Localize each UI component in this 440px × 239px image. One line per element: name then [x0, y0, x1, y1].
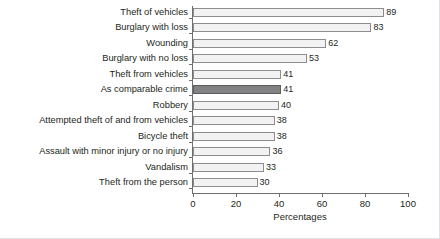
category-label: Theft from the person — [0, 177, 188, 188]
y-axis-tick — [189, 33, 192, 34]
bar-row: Wounding62 — [0, 38, 440, 54]
bar — [193, 8, 384, 17]
plot-area: Theft of vehicles89Burglary with loss83W… — [0, 0, 440, 239]
x-axis-tick — [408, 193, 409, 197]
bar-row: As comparable crime41 — [0, 84, 440, 100]
y-axis-tick — [189, 49, 192, 50]
x-axis-title-label: Percentages — [273, 211, 326, 222]
bar-highlighted — [193, 85, 281, 94]
category-label: Vandalism — [0, 162, 188, 173]
bar-value-label: 41 — [283, 69, 293, 80]
x-axis-tick — [322, 193, 323, 197]
x-axis-line — [192, 193, 409, 194]
bar — [193, 116, 275, 125]
bar-value-label: 83 — [373, 22, 383, 33]
x-axis-tick-label: 0 — [190, 198, 195, 210]
category-label: Theft of vehicles — [0, 7, 188, 18]
category-label: As comparable crime — [0, 84, 188, 95]
x-axis-tick — [279, 193, 280, 197]
bar-value-label: 40 — [281, 100, 291, 111]
category-label: Theft from vehicles — [0, 69, 188, 80]
bar-row: Robbery40 — [0, 100, 440, 116]
category-label: Burglary with loss — [0, 22, 188, 33]
bar-chart-figure: Theft of vehicles89Burglary with loss83W… — [0, 0, 440, 239]
x-axis-tick — [365, 193, 366, 197]
y-axis-tick — [189, 64, 192, 65]
bar-row: Vandalism33 — [0, 162, 440, 178]
bar — [193, 163, 264, 172]
y-axis-tick — [189, 173, 192, 174]
bar-value-label: 62 — [328, 38, 338, 49]
bar-value-label: 36 — [272, 146, 282, 157]
category-label: Robbery — [0, 100, 188, 111]
bar-value-label: 38 — [277, 115, 287, 126]
category-label: Burglary with no loss — [0, 53, 188, 64]
y-axis-tick — [189, 188, 192, 189]
x-axis-tick-label: 100 — [400, 198, 416, 210]
y-axis-tick — [189, 80, 192, 81]
y-axis-tick — [189, 142, 192, 143]
bar-row: Theft from vehicles41 — [0, 69, 440, 85]
bar-value-label: 41 — [283, 84, 293, 95]
bar-value-label: 53 — [309, 53, 319, 64]
bar-row: Burglary with no loss53 — [0, 53, 440, 69]
bar-row: Bicycle theft38 — [0, 131, 440, 147]
bar-value-label: 89 — [386, 7, 396, 18]
bar — [193, 39, 326, 48]
bar-value-label: 38 — [277, 131, 287, 142]
x-axis-tick-label: 60 — [317, 198, 328, 210]
bar — [193, 147, 270, 156]
y-axis-tick — [189, 18, 192, 19]
bar-row: Theft of vehicles89 — [0, 7, 440, 23]
bar-row: Theft from the person30 — [0, 177, 440, 193]
x-axis-tick-label: 80 — [360, 198, 371, 210]
x-axis-title: Percentages — [0, 211, 440, 223]
category-label: Bicycle theft — [0, 131, 188, 142]
x-axis-tick-label: 40 — [274, 198, 285, 210]
category-label: Wounding — [0, 38, 188, 49]
bar — [193, 23, 371, 32]
y-axis-tick — [189, 157, 192, 158]
x-axis-tick — [236, 193, 237, 197]
bar-row: Burglary with loss83 — [0, 22, 440, 38]
bar — [193, 54, 307, 63]
x-axis-tick-label: 20 — [231, 198, 242, 210]
bar — [193, 70, 281, 79]
x-axis-tick — [193, 193, 194, 197]
bar-row: Assault with minor injury or no injury36 — [0, 146, 440, 162]
y-axis-tick — [189, 111, 192, 112]
bar-value-label: 30 — [260, 177, 270, 188]
category-label: Attempted theft of and from vehicles — [0, 115, 188, 126]
category-label: Assault with minor injury or no injury — [0, 146, 188, 157]
bar — [193, 178, 258, 187]
bar-value-label: 33 — [266, 162, 276, 173]
bar — [193, 101, 279, 110]
bar-row: Attempted theft of and from vehicles38 — [0, 115, 440, 131]
y-axis-tick — [189, 126, 192, 127]
y-axis-tick — [189, 95, 192, 96]
bar — [193, 132, 275, 141]
